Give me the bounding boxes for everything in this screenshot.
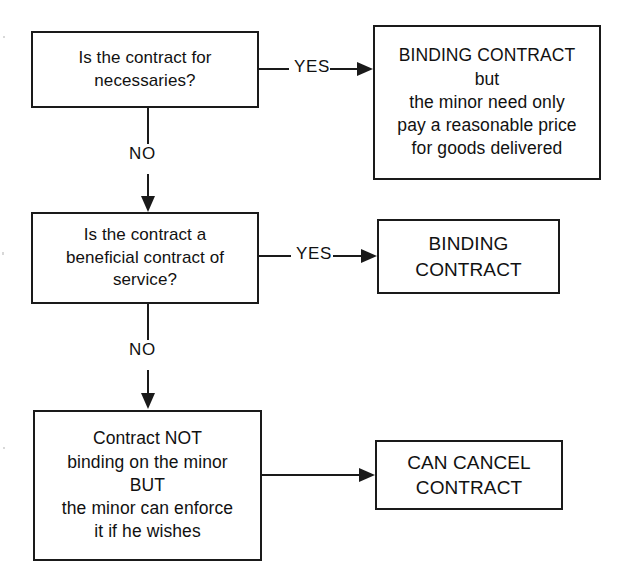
node-outcome-binding[interactable]: BINDING CONTRACT (377, 219, 560, 294)
edge-no-beneficial-line-top (147, 304, 149, 340)
edge-yes-beneficial-line-left (259, 255, 291, 257)
edge-label-no-necessaries: NO (126, 144, 159, 164)
edge-yes-beneficial-line-right (333, 255, 362, 257)
node-outcome-not-binding-label: Contract NOT binding on the minor BUT th… (62, 427, 233, 543)
node-outcome-binding-label: BINDING CONTRACT (415, 231, 521, 282)
edge-yes-necessaries-line-right (330, 68, 358, 70)
node-question-necessaries-label: Is the contract for necessaries? (78, 47, 211, 92)
edge-label-yes-beneficial: YES (293, 244, 335, 264)
scan-artifact (3, 447, 5, 449)
edge-label-no-beneficial: NO (126, 340, 159, 360)
scan-artifact (3, 36, 5, 38)
node-outcome-necessaries-label: BINDING CONTRACT but the minor need only… (397, 44, 576, 160)
edge-no-beneficial-line-bottom (147, 370, 149, 394)
edge-no-beneficial-arrowhead (141, 393, 155, 409)
edge-label-yes-necessaries: YES (291, 57, 333, 77)
node-question-necessaries[interactable]: Is the contract for necessaries? (31, 31, 259, 108)
edge-to-can-cancel-arrowhead (359, 468, 375, 482)
edge-no-necessaries-line-top (147, 108, 149, 144)
node-outcome-not-binding[interactable]: Contract NOT binding on the minor BUT th… (33, 410, 262, 561)
edge-yes-necessaries-line-left (259, 68, 289, 70)
node-outcome-necessaries[interactable]: BINDING CONTRACT but the minor need only… (373, 25, 601, 180)
edge-no-necessaries-arrowhead (141, 196, 155, 212)
edge-yes-necessaries-arrowhead (357, 62, 373, 76)
node-question-beneficial-service[interactable]: Is the contract a beneficial contract of… (31, 212, 259, 304)
scan-artifact (2, 252, 4, 255)
flowchart-canvas: Is the contract for necessaries? YES BIN… (0, 0, 624, 588)
node-outcome-can-cancel-label: CAN CANCEL CONTRACT (407, 450, 530, 501)
edge-no-necessaries-line-bottom (147, 174, 149, 198)
edge-yes-beneficial-arrowhead (361, 249, 377, 263)
node-outcome-can-cancel[interactable]: CAN CANCEL CONTRACT (375, 440, 563, 510)
node-question-beneficial-service-label: Is the contract a beneficial contract of… (66, 224, 224, 292)
edge-to-can-cancel-line (262, 474, 361, 476)
